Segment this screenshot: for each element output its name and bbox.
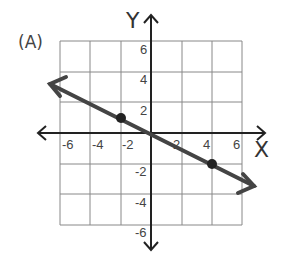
coordinate-plane-figure: (A) (0, 0, 284, 266)
point-neg2-1 (116, 113, 126, 123)
y-tick: 6 (140, 42, 147, 57)
x-tick: -4 (92, 137, 104, 152)
x-tick: -6 (62, 137, 74, 152)
x-axis-label: X (254, 137, 269, 162)
y-tick: 4 (140, 72, 147, 87)
x-tick: -2 (122, 137, 134, 152)
point-4-neg2 (207, 159, 217, 169)
y-tick: 2 (140, 103, 147, 118)
y-tick: -4 (135, 195, 147, 210)
x-tick: 6 (233, 137, 240, 152)
axes (38, 15, 265, 250)
y-tick: -2 (135, 164, 147, 179)
y-axis-label: Y (126, 8, 139, 33)
y-tick: -6 (135, 225, 147, 240)
x-tick: 4 (203, 137, 210, 152)
x-tick: 2 (173, 137, 180, 152)
